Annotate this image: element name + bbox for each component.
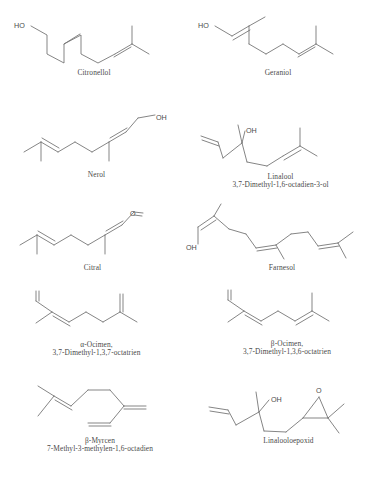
molecule-linalool: OH Linalool 3,7-Dimethyl-1,6-octadien-3-… [198,116,363,190]
caption-geraniol: Geraniol [198,69,358,77]
molecule-alpha-ocimen: α-Ocimen, 3,7-Dimethyl-1,3,7-octatrien [24,291,169,358]
molecule-name: Farnesol [186,264,378,272]
molecule-name: Linalooloepoxid [206,437,371,445]
molecule-name: Nerol [14,171,179,179]
molecule-subtitle: 7-Methyl-3-methylen-1,6-octadien [30,445,170,453]
hydroxyl-label: HO [14,21,25,30]
hydroxyl-label: OH [271,395,282,404]
epoxide-oxygen-label: O [316,386,322,395]
farnesol-structure: OH [186,202,378,264]
caption-alpha-ocimen: α-Ocimen, 3,7-Dimethyl-1,3,7-octatrien [24,341,169,358]
caption-beta-myrcen: β-Myrcen 7-Methyl-3-methylen-1,6-octadie… [30,437,170,454]
molecule-geraniol: HO Geraniol [198,14,358,77]
linalooloepoxid-structure: OH O [206,380,371,436]
molecule-name: Geraniol [198,69,358,77]
molecule-linalooloepoxid: OH O Linalooloepoxid [206,380,371,445]
beta-ocimen-structure [212,288,362,338]
molecule-citronellol: HO Citronellol [14,14,174,77]
caption-farnesol: Farnesol [186,264,378,272]
caption-linalooloepoxid: Linalooloepoxid [206,437,371,445]
nerol-structure: OH [14,110,179,170]
molecule-nerol: OH Nerol [14,110,179,179]
hydroxyl-label: OH [156,113,167,122]
molecule-beta-myrcen: β-Myrcen 7-Methyl-3-methylen-1,6-octadie… [30,378,170,454]
caption-linalool: Linalool 3,7-Dimethyl-1,6-octadien-3-ol [198,173,363,190]
hydroxyl-label: OH [246,126,257,135]
molecule-subtitle: 3,7-Dimethyl-1,3,7-octatrien [24,349,169,357]
caption-beta-ocimen: β-Ocimen, 3,7-Dimethyl-1,3,6-octatrien [212,340,362,357]
linalool-structure: OH [198,116,363,172]
citronellol-structure: HO [14,14,174,66]
beta-myrcen-structure [30,378,170,436]
citral-structure: O [10,208,175,263]
structure-sheet: HO Citronellol HO [0,0,380,486]
molecule-farnesol: OH Farnesol [186,202,378,272]
caption-citral: Citral [10,264,175,272]
geraniol-structure: HO [198,14,358,66]
molecule-name: Citronellol [14,69,174,77]
molecule-name: Citral [10,264,175,272]
hydroxyl-label: HO [198,21,209,30]
caption-nerol: Nerol [14,171,179,179]
alpha-ocimen-structure [24,291,169,339]
molecule-citral: O Citral [10,208,175,272]
molecule-subtitle: 3,7-Dimethyl-1,3,6-octatrien [212,348,362,356]
caption-citronellol: Citronellol [14,69,174,77]
hydroxyl-label: OH [186,243,197,252]
molecule-subtitle: 3,7-Dimethyl-1,6-octadien-3-ol [198,181,363,189]
molecule-beta-ocimen: β-Ocimen, 3,7-Dimethyl-1,3,6-octatrien [212,288,362,357]
